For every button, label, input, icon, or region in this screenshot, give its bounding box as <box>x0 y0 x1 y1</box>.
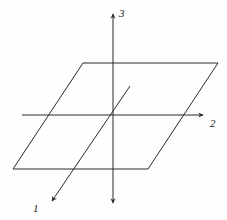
axis-1-label: 1 <box>33 203 39 214</box>
coordinate-axes-figure: 3 2 1 <box>0 0 227 220</box>
axis-3-label: 3 <box>119 8 125 19</box>
axis-2-label: 2 <box>210 118 216 129</box>
plane-1-2-parallelogram <box>13 63 218 169</box>
axes-drawing <box>0 0 227 220</box>
axis-1-line <box>52 86 130 201</box>
